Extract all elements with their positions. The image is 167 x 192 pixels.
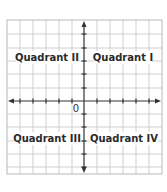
x-axis-left-arrow-icon <box>8 99 14 104</box>
quadrant-iv-label: Quadrant IV <box>90 133 158 144</box>
x-axis-right-arrow-icon <box>155 99 161 104</box>
y-axis <box>82 24 87 170</box>
quadrant-i-label: Quadrant I <box>93 52 153 63</box>
y-axis-down-arrow-icon <box>82 167 87 173</box>
quadrant-ii-label: Quadrant II <box>15 52 79 63</box>
y-axis-up-arrow-icon <box>82 21 87 27</box>
coordinate-plane: Quadrant II Quadrant I Quadrant III Quad… <box>0 0 167 192</box>
quadrant-iii-label: Quadrant III <box>13 133 81 144</box>
origin-label: 0 <box>73 103 79 114</box>
